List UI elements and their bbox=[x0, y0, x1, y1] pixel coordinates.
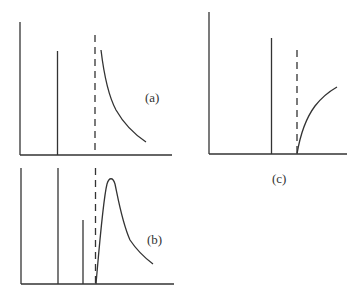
panel-a bbox=[20, 22, 172, 155]
panel-c-rise-curve bbox=[297, 87, 337, 154]
panel-a-label: (a) bbox=[145, 91, 159, 104]
panel-c bbox=[209, 12, 347, 154]
panel-b-peak-curve bbox=[96, 179, 153, 284]
panel-a-decay-curve bbox=[101, 50, 146, 142]
panel-b-label: (b) bbox=[147, 233, 162, 246]
diagram-canvas bbox=[0, 0, 360, 301]
panel-b bbox=[21, 168, 174, 284]
panel-c-label: (c) bbox=[272, 172, 286, 185]
